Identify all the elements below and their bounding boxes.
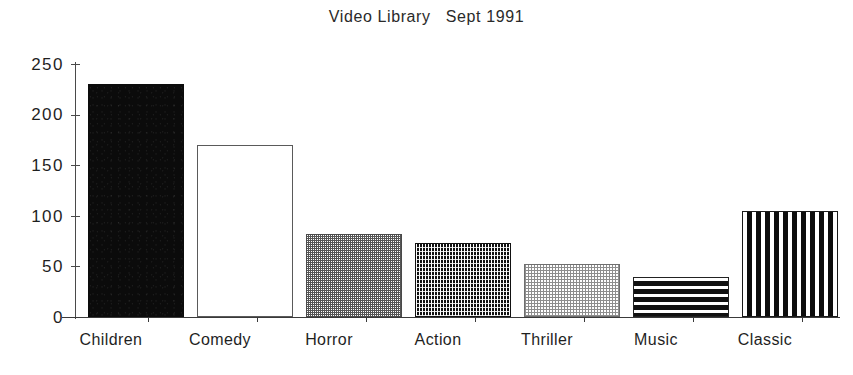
- x-axis-category-label-classic: Classic: [715, 331, 815, 349]
- bar-horror[interactable]: [306, 234, 402, 317]
- x-axis-category-label-comedy: Comedy: [170, 331, 270, 349]
- y-axis-tick-label-250: 250: [0, 55, 64, 75]
- x-axis-category-label-children: Children: [61, 331, 161, 349]
- x-axis-category-label-music: Music: [606, 331, 706, 349]
- x-axis-category-label-thriller: Thriller: [497, 331, 597, 349]
- x-axis-category-label-action: Action: [388, 331, 488, 349]
- bar-children[interactable]: [88, 84, 184, 317]
- y-axis-tick-label-50: 50: [0, 257, 64, 277]
- bar-action[interactable]: [415, 243, 511, 317]
- x-axis-category-label-horror: Horror: [279, 331, 379, 349]
- bar-music[interactable]: [633, 277, 729, 317]
- bar-classic[interactable]: [742, 211, 838, 317]
- bar-chart: Video Library Sept 1991 250 200 150 100 …: [0, 0, 853, 375]
- bar-comedy[interactable]: [197, 145, 293, 317]
- chart-title: Video Library Sept 1991: [0, 8, 853, 26]
- x-axis-line: [62, 317, 840, 318]
- y-axis-tick-label-0: 0: [0, 308, 64, 328]
- bar-thriller[interactable]: [524, 264, 620, 317]
- y-axis-tick-label-200: 200: [0, 105, 64, 125]
- plot-area: [75, 64, 837, 317]
- y-axis-tick-label-100: 100: [0, 207, 64, 227]
- y-axis-tick-label-150: 150: [0, 156, 64, 176]
